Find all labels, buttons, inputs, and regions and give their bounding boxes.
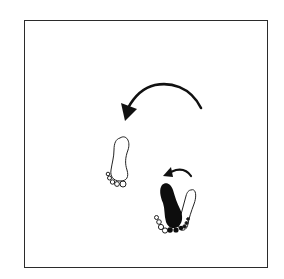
small-turn-arrow [163,167,191,177]
toe [115,182,120,187]
filled-footprint [155,183,184,233]
toe [157,220,162,225]
toe [173,227,178,232]
open-left-footprint [106,137,129,187]
filled-foot-sole [160,183,182,228]
toe [155,216,159,220]
toe [179,226,183,230]
toe [120,181,126,187]
large-turn-arrow [121,84,201,121]
toe [162,228,167,233]
footwork-diagram [0,0,284,279]
toe [187,218,190,221]
toe [106,172,110,176]
toe [108,176,112,180]
small-arrow-head [163,167,173,177]
diagram-canvas [0,0,284,279]
toe [185,222,188,225]
open-right-footprint [179,190,196,231]
large-arrow-shaft [128,84,201,108]
toe [183,225,186,228]
toe [110,180,114,184]
open-left-foot-sole [111,137,129,181]
